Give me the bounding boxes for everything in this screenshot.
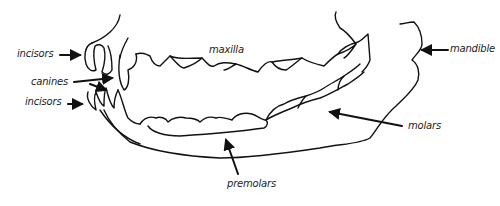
label-incisors-upper: incisors — [17, 48, 53, 59]
label-canines: canines — [31, 76, 68, 87]
arrow-canines-lower — [90, 84, 106, 90]
label-premolars: premolars — [227, 178, 276, 189]
arrow-premolars — [226, 140, 238, 174]
label-molars: molars — [408, 120, 441, 131]
arrow-canines-upper — [74, 78, 112, 82]
label-mandible: mandible — [450, 43, 495, 54]
jaw-diagram: incisors canines incisors maxilla mandib… — [0, 0, 500, 206]
label-incisors-lower: incisors — [25, 96, 61, 107]
arrow-molars — [330, 112, 402, 126]
label-maxilla: maxilla — [209, 44, 244, 55]
label-arrows — [0, 0, 500, 206]
